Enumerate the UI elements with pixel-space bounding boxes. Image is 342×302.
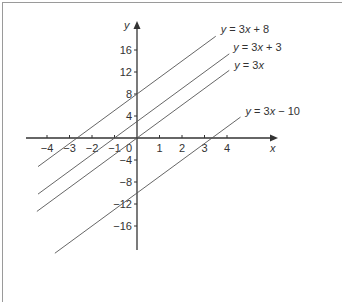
x-tick-label: −1 xyxy=(108,142,121,154)
y-tick-label: 16 xyxy=(120,44,132,56)
series-lines xyxy=(37,36,241,253)
y-tick-label: 4 xyxy=(126,110,132,122)
y-tick-label: −16 xyxy=(113,220,132,232)
x-tick-label: 4 xyxy=(224,142,230,154)
series-label: y = 3x + 8 xyxy=(220,23,269,35)
y-tick-label: −8 xyxy=(119,176,132,188)
y-tick-label: 12 xyxy=(120,66,132,78)
series-label: y = 3x − 10 xyxy=(245,105,300,117)
x-tick-label: −2 xyxy=(86,142,99,154)
series-label: y = 3x + 3 xyxy=(232,41,281,53)
series-label: y = 3x xyxy=(233,59,264,71)
y-tick-label: −4 xyxy=(119,154,132,166)
x-axis-label: x xyxy=(269,142,276,154)
y-axis-label: y xyxy=(123,19,131,31)
y-axis-arrowhead xyxy=(134,21,141,29)
axes: x y 0 xyxy=(26,19,278,250)
x-tick-label: 1 xyxy=(156,142,162,154)
x-axis-arrowhead xyxy=(270,135,278,142)
x-tick-label: 2 xyxy=(179,142,185,154)
series-line xyxy=(38,54,229,194)
x-tick-label: −4 xyxy=(41,142,54,154)
series-line xyxy=(37,70,229,211)
series-labels: y = 3x + 8y = 3x + 3y = 3xy = 3x − 10 xyxy=(220,23,300,117)
